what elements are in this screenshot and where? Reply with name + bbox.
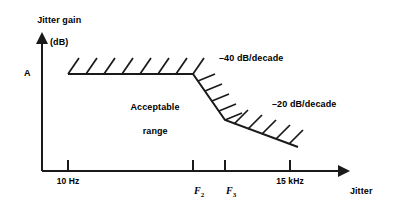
x-tick-label-f3: F3 — [213, 174, 239, 208]
hatch-group-flat — [68, 58, 204, 74]
y-axis-title: Jitter gain (dB) — [8, 4, 100, 59]
x-tick-label-15khz: 15 kHz — [263, 176, 317, 187]
slope-label-20db: –20 dB/decade — [272, 99, 336, 110]
jitter-transfer-figure: Jitter gain (dB) A Acceptable range –40 … — [0, 0, 393, 208]
x-tick-label-10hz: 10 Hz — [44, 176, 92, 187]
acceptable-range-line2: range — [143, 126, 168, 136]
x-axis-title: Jitter frequency — [322, 175, 390, 208]
y-axis-title-line1: Jitter gain — [37, 15, 81, 25]
acceptable-range-line1: Acceptable — [131, 102, 180, 112]
x-tick-label-f2-base: F — [194, 185, 201, 196]
acceptable-range-label: Acceptable range — [104, 89, 196, 149]
x-tick-label-f2-sub: 2 — [201, 191, 205, 199]
slope-label-40db: –40 dB/decade — [219, 53, 283, 64]
x-axis-title-line1: Jitter — [350, 186, 373, 196]
y-axis-title-line2: (dB) — [50, 37, 68, 47]
x-tick-label-f3-sub: 3 — [233, 191, 237, 199]
x-tick-label-f2: F2 — [181, 174, 207, 208]
y-level-label-a: A — [24, 68, 31, 79]
x-tick-label-f3-base: F — [226, 185, 233, 196]
